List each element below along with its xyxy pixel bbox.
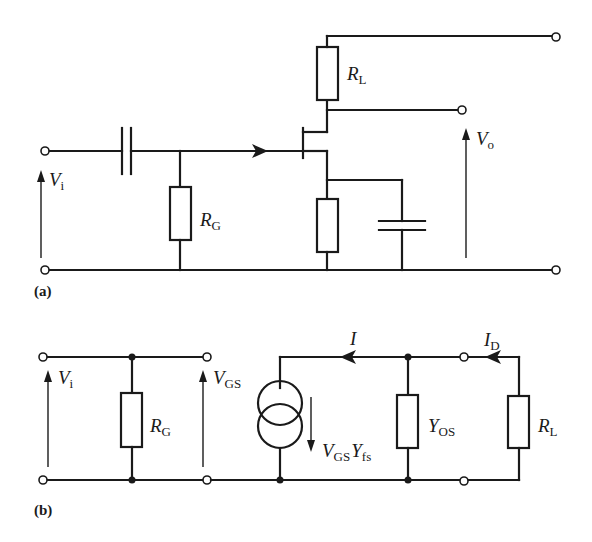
terminal-drain-top bbox=[460, 353, 468, 361]
coupling-capacitor bbox=[122, 128, 131, 174]
label-vi-b: Vi bbox=[58, 367, 74, 391]
label-rl-a: RL bbox=[346, 63, 367, 87]
label-rg-a: RG bbox=[199, 209, 221, 233]
resistor-source bbox=[317, 199, 338, 252]
label-vo: Vo bbox=[476, 128, 494, 152]
label-yos: YOS bbox=[428, 415, 455, 439]
label-vi-a: Vi bbox=[49, 169, 65, 193]
resistor-rl-a bbox=[317, 47, 338, 100]
panel-a-circuit: RG RL bbox=[34, 33, 560, 300]
resistor-rg-b bbox=[121, 393, 142, 447]
terminal-vgs-bottom bbox=[203, 476, 211, 484]
circuit-diagram: RG RL bbox=[0, 0, 592, 542]
terminal-input-top bbox=[41, 147, 49, 155]
terminal-vgs-top bbox=[203, 353, 211, 361]
terminal-vi-top bbox=[39, 353, 47, 361]
terminal-supply bbox=[552, 33, 560, 41]
panel-b-circuit: RG Vi VGS VGSYfs I Y bbox=[34, 328, 558, 519]
label-id: ID bbox=[483, 329, 500, 353]
current-source-icon bbox=[258, 381, 302, 448]
label-rg-b: RG bbox=[149, 415, 171, 439]
bypass-capacitor bbox=[379, 180, 425, 270]
jfet-transistor bbox=[303, 128, 327, 158]
label-rl-b: RL bbox=[537, 415, 558, 439]
panel-a-label: (a) bbox=[34, 283, 52, 300]
admittance-yos bbox=[397, 395, 418, 448]
panel-b-label: (b) bbox=[34, 502, 52, 519]
terminal-output bbox=[458, 106, 466, 114]
terminal-output-bottom bbox=[552, 266, 560, 274]
label-vgs-yfs: VGSYfs bbox=[322, 440, 371, 464]
label-vgs: VGS bbox=[213, 367, 241, 391]
terminal-input-bottom bbox=[41, 266, 49, 274]
terminal-drain-bottom bbox=[460, 477, 468, 485]
resistor-rg-a bbox=[170, 187, 191, 240]
terminal-vi-bottom bbox=[39, 476, 47, 484]
label-i: I bbox=[349, 328, 358, 349]
resistor-rl-b bbox=[508, 396, 529, 448]
